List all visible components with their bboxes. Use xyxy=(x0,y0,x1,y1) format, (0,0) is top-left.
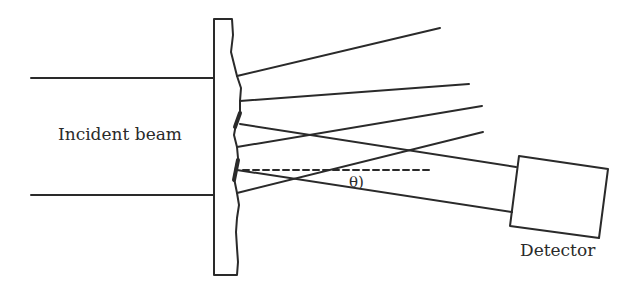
diffracted-ray-2 xyxy=(240,84,469,101)
angle-theta-label: θ) xyxy=(349,173,364,191)
crystal-facet-1 xyxy=(235,113,240,127)
detector-box xyxy=(510,156,608,238)
incident-beam-label: Incident beam xyxy=(58,124,182,144)
diffracted-ray-1 xyxy=(237,28,440,76)
detector-ray-top xyxy=(240,124,516,167)
detector-label: Detector xyxy=(520,240,596,260)
diffraction-diagram: Incident beam θ) Detector xyxy=(0,0,635,285)
detector-ray-bottom xyxy=(237,170,512,212)
